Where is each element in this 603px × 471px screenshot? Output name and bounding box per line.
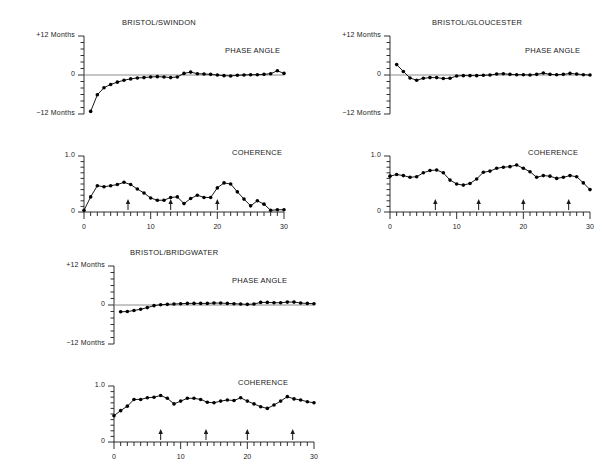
coherence-data-point: [129, 183, 133, 187]
phase-data-point: [256, 73, 260, 77]
coherence-data-point: [588, 188, 592, 192]
coherence-data-point: [112, 414, 116, 418]
phase-y-bottom-label: −12 Months: [328, 109, 381, 116]
coherence-data-point: [269, 209, 273, 213]
phase-data-point: [276, 69, 280, 73]
coherence-data-point: [256, 199, 260, 203]
coherence-data-line: [390, 165, 590, 190]
phase-data-point: [286, 300, 290, 304]
coherence-x-tick-label: 0: [112, 453, 116, 460]
phase-data-point: [488, 73, 492, 77]
coherence-y-zero-label: 0: [328, 207, 381, 214]
phase-data-point: [462, 74, 466, 78]
coherence-data-point: [528, 170, 532, 174]
phase-data-point: [562, 73, 566, 77]
coherence-data-point: [132, 398, 136, 402]
coherence-data-point: [442, 171, 446, 175]
coherence-data-point: [522, 167, 526, 171]
coherence-data-point: [122, 181, 126, 185]
coherence-data-point: [169, 196, 173, 200]
coherence-arrow-marker: [215, 199, 219, 210]
phase-data-point: [262, 73, 266, 77]
phase-data-point: [542, 71, 546, 75]
phase-data-point: [89, 110, 93, 114]
phase-data-point: [468, 74, 472, 78]
phase-data-point: [415, 78, 419, 82]
coherence-data-point: [189, 197, 193, 201]
coherence-data-point: [202, 196, 206, 200]
coherence-data-point: [142, 191, 146, 195]
phase-data-point: [219, 301, 223, 305]
phase-data-point: [442, 77, 446, 81]
coherence-x-tick-label: 0: [82, 223, 86, 230]
coherence-data-point: [495, 167, 499, 171]
coherence-plot: 0102030: [328, 148, 603, 258]
coherence-data-point: [402, 174, 406, 178]
coherence-data-point: [312, 401, 316, 405]
phase-data-point: [102, 86, 106, 90]
coherence-data-point: [262, 202, 266, 206]
phase-data-point: [455, 74, 459, 78]
coherence-data-point: [408, 175, 412, 179]
phase-data-point: [146, 306, 150, 310]
phase-data-point: [395, 63, 399, 67]
coherence-data-point: [488, 169, 492, 173]
coherence-data-point: [146, 396, 150, 400]
phase-data-point: [159, 303, 163, 307]
phase-data-point: [122, 78, 126, 82]
phase-data-point: [169, 76, 173, 80]
coherence-arrow-marker: [204, 429, 208, 440]
phase-data-point: [206, 302, 210, 306]
phase-data-point: [266, 301, 270, 305]
phase-y-bottom-label: −12 Months: [52, 339, 105, 346]
coherence-data-point: [82, 209, 86, 213]
coherence-data-point: [212, 401, 216, 405]
coherence-data-point: [206, 400, 210, 404]
coherence-data-point: [159, 394, 163, 398]
coherence-data-point: [192, 397, 196, 401]
coherence-data-point: [395, 173, 399, 177]
phase-data-point: [202, 72, 206, 76]
coherence-data-point: [448, 178, 452, 182]
phase-data-point: [435, 76, 439, 80]
phase-data-point: [306, 302, 310, 306]
coherence-data-point: [116, 183, 120, 187]
phase-data-point: [242, 73, 246, 77]
coherence-arrow-marker: [126, 199, 130, 210]
phase-data-point: [212, 301, 216, 305]
coherence-data-point: [139, 398, 143, 402]
coherence-data-point: [102, 185, 106, 189]
coherence-data-point: [176, 195, 180, 199]
coherence-data-point: [89, 195, 93, 199]
phase-data-point: [535, 73, 539, 77]
coherence-data-point: [119, 409, 123, 413]
coherence-data-point: [508, 165, 512, 169]
coherence-data-point: [209, 196, 213, 200]
coherence-y-top-label: 1.0: [22, 151, 75, 158]
coherence-data-point: [152, 395, 156, 399]
coherence-x-tick-label: 20: [213, 223, 221, 230]
phase-data-point: [508, 73, 512, 77]
phase-data-point: [192, 302, 196, 306]
phase-data-point: [139, 307, 143, 311]
coherence-x-tick-label: 30: [586, 223, 594, 230]
phase-data-point: [119, 310, 123, 314]
phase-data-point: [482, 74, 486, 78]
coherence-data-point: [455, 182, 459, 186]
coherence-data-point: [266, 407, 270, 411]
phase-data-point: [279, 301, 283, 305]
coherence-x-tick-label: 10: [453, 223, 461, 230]
coherence-data-point: [229, 182, 233, 186]
coherence-data-point: [575, 175, 579, 179]
phase-data-point: [246, 303, 250, 307]
coherence-data-point: [272, 403, 276, 407]
coherence-data-point: [415, 175, 419, 179]
phase-data-point: [199, 302, 203, 306]
phase-data-point: [568, 72, 572, 76]
phase-data-point: [162, 75, 166, 79]
phase-y-top-label: +12 Months: [52, 261, 105, 268]
phase-data-point: [269, 72, 273, 76]
phase-data-point: [428, 76, 432, 80]
phase-data-point: [149, 75, 153, 79]
phase-data-line: [91, 71, 284, 112]
